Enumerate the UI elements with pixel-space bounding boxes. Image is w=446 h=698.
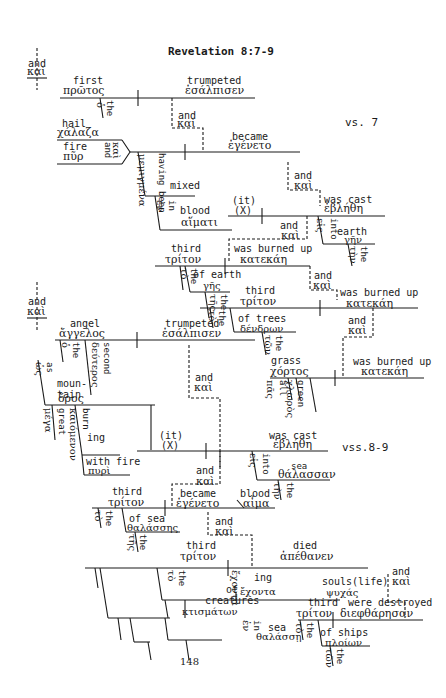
word-of-earth-en: of earth — [193, 269, 241, 280]
word-x: (X) — [234, 205, 252, 216]
word-and-10-gr: καὶ — [215, 526, 234, 538]
word-the-of-earth: the — [219, 294, 228, 310]
word-hail-gr: χάλαζα — [57, 127, 99, 139]
word-became-2-gr: ἐγένετο — [176, 498, 219, 510]
word-into-2-en: into — [261, 453, 270, 475]
word-destroyed-gr: διεφθάρησαν — [340, 608, 413, 620]
word-ton-ships: τῶν — [324, 648, 334, 668]
word-into-1-gr: εἰς — [315, 218, 325, 233]
word-died-gr: ἀπέθανεν — [280, 551, 333, 563]
word-and-4-gr: καὶ — [281, 230, 300, 242]
word-second-en: second — [102, 342, 111, 375]
word-blood-gr: αἵματι — [181, 217, 218, 229]
word-as-en: as — [45, 362, 54, 373]
word-in-2-gr: ἐν — [241, 620, 251, 631]
word-ton-trees: τῶν — [263, 335, 273, 355]
word-mountain-gr: ὄρος — [58, 393, 84, 405]
word-and-v-gr: καὶ — [111, 142, 121, 159]
word-grass-gr: χόρτος — [270, 366, 309, 378]
word-burning-ing: ing — [87, 432, 105, 443]
word-of-sea-gr: θαλάσσης — [127, 522, 178, 534]
word-and-6-gr: καὶ — [348, 325, 367, 337]
word-and-7-gr: καὶ — [27, 306, 46, 318]
word-earth-gr: γῆν — [344, 234, 362, 246]
word-angel-gr: ἄγγελος — [59, 328, 105, 340]
word-x-2: (X) — [161, 440, 179, 451]
word-the-sea-1: the — [285, 482, 294, 498]
word-to-third-4: τὸ — [166, 570, 176, 582]
word-the-third-5: the — [305, 622, 314, 638]
word-and-5-gr: καὶ — [313, 280, 332, 292]
word-having-gr-v: ἔχοντα — [230, 570, 240, 606]
word-burned-3-gr: κατεκάη — [361, 366, 408, 378]
word-green-gr: χλωρὸς — [285, 380, 295, 418]
word-sea-2-gr: θαλάσσῃ — [256, 631, 302, 643]
word-ten-earth: τὴν — [348, 246, 358, 264]
word-and-2-gr: καὶ — [177, 118, 196, 130]
word-the-trees: the — [274, 335, 283, 351]
word-the-earth: the — [359, 246, 368, 262]
word-burned-1-gr: κατεκάη — [240, 254, 287, 266]
word-second-gr: δεύτερος — [90, 342, 100, 388]
word-ten-sea-1: τὴν — [272, 482, 282, 500]
word-of-creatures-gr: κτισμάτων — [182, 606, 238, 618]
word-o-1: ὁ — [95, 102, 105, 108]
word-with-fire-gr: πυρὶ — [88, 465, 110, 477]
word-was-cast-2-gr: ἐβλήθη — [273, 439, 312, 451]
word-blood-2-gr: αἷμα — [243, 498, 269, 510]
word-into-2-gr: εἰς — [248, 453, 258, 468]
word-of-trees-gr: δένδρων — [240, 323, 283, 335]
word-great-en: great — [57, 408, 66, 435]
word-blood-en: blood — [180, 205, 210, 216]
word-souls-en: souls(life) — [322, 576, 388, 587]
word-third-2-gr: τρίτον — [240, 296, 276, 308]
word-trumpeted-gr: ἐσάλπισεν — [185, 85, 244, 97]
word-o-angel: ὁ — [60, 342, 70, 348]
word-to-third-1: τὸ — [179, 268, 189, 280]
word-of-earth-gr: γῆς — [203, 280, 221, 292]
word-third-3-gr: τρίτον — [108, 497, 144, 509]
word-and-1-gr: καὶ — [27, 66, 46, 78]
word-third-5-gr: τρίτον — [296, 608, 332, 620]
word-was-cast-1-gr: ἐβλήθη — [324, 203, 363, 215]
page-number: 148 — [180, 656, 199, 667]
word-mixed-gr-v: μεμιγμένα — [137, 154, 147, 207]
word-mixed-en: mixed — [170, 180, 200, 191]
word-and-3-gr: καὶ — [294, 180, 313, 192]
word-tes-of-earth: τῆς — [208, 294, 218, 311]
word-trumpeted-2-gr: ἐσάλπισεν — [162, 328, 221, 340]
word-tes-of-sea: τῆς — [127, 534, 137, 551]
word-as-gr: ὡς — [34, 362, 44, 376]
word-the-angel: the — [71, 342, 80, 358]
word-having-ing: ing — [254, 572, 272, 583]
word-first-gr: πρῶτος — [63, 85, 105, 97]
word-in-2-en: in — [252, 620, 261, 631]
word-the-third-4: the — [177, 570, 186, 586]
word-the-third-3: the — [104, 510, 113, 526]
verse-label-8-9: vss.8-9 — [342, 441, 388, 454]
verse-label-7: vs. 7 — [345, 116, 378, 129]
word-all-gr: πᾶς — [265, 380, 275, 399]
word-having-gr: ἔχοντα — [240, 586, 276, 598]
word-to-third-3: τὸ — [93, 510, 103, 522]
word-burning-en: burn — [81, 408, 90, 430]
word-sea-1-gr: θάλασσαν — [278, 469, 336, 481]
word-the-of-sea: the — [138, 534, 147, 550]
word-in-1-en: in — [167, 200, 176, 211]
word-and-9-gr: καὶ — [196, 476, 215, 488]
word-third-1-gr: τρίτον — [165, 254, 201, 266]
word-the-ships: the — [335, 648, 344, 664]
word-fire-gr: πῦρ — [63, 151, 83, 163]
word-great-gr: μέγα — [43, 408, 53, 432]
page-title: Revelation 8:7-9 — [168, 45, 274, 58]
word-the-1: the — [105, 100, 114, 116]
word-and-11-gr: καὶ — [392, 576, 411, 588]
word-burned-2-gr: κατεκάη — [346, 298, 393, 310]
word-burning-gr-v: καιόμενον — [68, 408, 78, 461]
word-became-gr: ἐγένετο — [228, 140, 271, 152]
word-third-4-gr: τρίτον — [180, 551, 216, 563]
word-green-en: green — [296, 380, 305, 407]
word-in-1-gr: ἐν — [155, 200, 165, 211]
word-and-8-gr: καὶ — [194, 382, 213, 394]
